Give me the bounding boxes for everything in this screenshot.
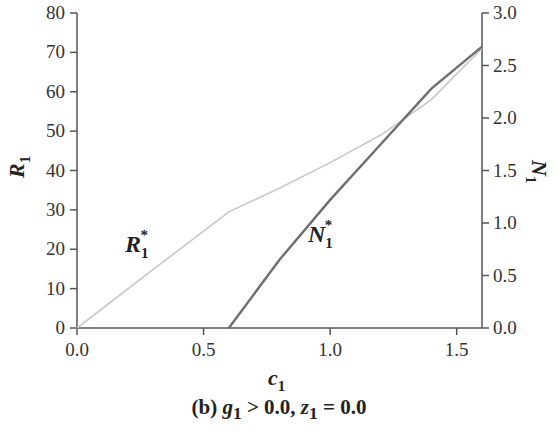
right-y-tick-label: 2.0: [493, 107, 517, 128]
caption-z-sub: 1: [309, 403, 318, 423]
caption-z: z: [301, 395, 309, 419]
right-y-axis-title: N1: [523, 159, 552, 183]
left-y-tick-label: 60: [46, 81, 65, 102]
x-tick-label: 1.5: [445, 339, 469, 360]
caption-prefix: (b): [191, 395, 222, 419]
r1-star-label: R1*: [124, 227, 149, 261]
right-y-tick-label: 1.0: [493, 212, 517, 233]
caption-g: g: [222, 395, 233, 419]
left-y-tick-label: 20: [46, 238, 65, 259]
right-y-ticks: 0.00.51.01.52.02.53.0: [482, 2, 517, 338]
left-y-tick-label: 40: [46, 160, 65, 181]
caption-mid: > 0.0,: [242, 395, 301, 419]
right-y-tick-label: 2.5: [493, 55, 517, 76]
caption-g-sub: 1: [233, 403, 242, 423]
right-y-tick-label: 3.0: [493, 2, 517, 23]
left-y-tick-label: 70: [46, 41, 65, 62]
left-y-tick-label: 10: [46, 278, 65, 299]
x-axis-title: c1: [268, 365, 285, 394]
series-r1-star-line: [77, 48, 482, 328]
chart: 01020304050607080 0.00.51.01.52.02.53.0 …: [0, 0, 558, 432]
x-tick-label: 0.0: [65, 339, 89, 360]
figure-caption: (b) g1 > 0.0, z1 = 0.0: [0, 395, 558, 424]
x-ticks: 0.00.51.01.5: [65, 328, 468, 360]
right-y-tick-label: 0.5: [493, 265, 517, 286]
right-y-tick-label: 1.5: [493, 160, 517, 181]
right-y-tick-label: 0.0: [493, 317, 517, 338]
left-y-axis-title: R1: [4, 156, 33, 179]
left-y-tick-label: 30: [46, 199, 65, 220]
series-n1-star-line: [229, 47, 482, 328]
caption-suffix: = 0.0: [318, 395, 367, 419]
left-y-tick-label: 80: [46, 2, 65, 23]
x-tick-label: 1.0: [318, 339, 342, 360]
left-y-ticks: 01020304050607080: [46, 2, 77, 338]
n1-star-label: N1*: [307, 217, 333, 251]
x-tick-label: 0.5: [192, 339, 216, 360]
left-y-tick-label: 50: [46, 120, 65, 141]
left-y-tick-label: 0: [56, 317, 66, 338]
